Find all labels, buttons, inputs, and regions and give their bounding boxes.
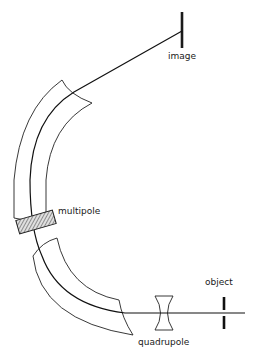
image-label: image — [168, 52, 196, 61]
quadrupole-label: quadrupole — [138, 338, 189, 347]
multipole-element — [16, 210, 56, 234]
lower-sector-magnet — [33, 238, 133, 335]
ion-optics-diagram — [0, 0, 256, 359]
upper-sector-magnet — [14, 80, 92, 224]
beam-path — [30, 31, 245, 313]
multipole-label: multipole — [58, 207, 100, 216]
object-label: object — [205, 278, 233, 287]
